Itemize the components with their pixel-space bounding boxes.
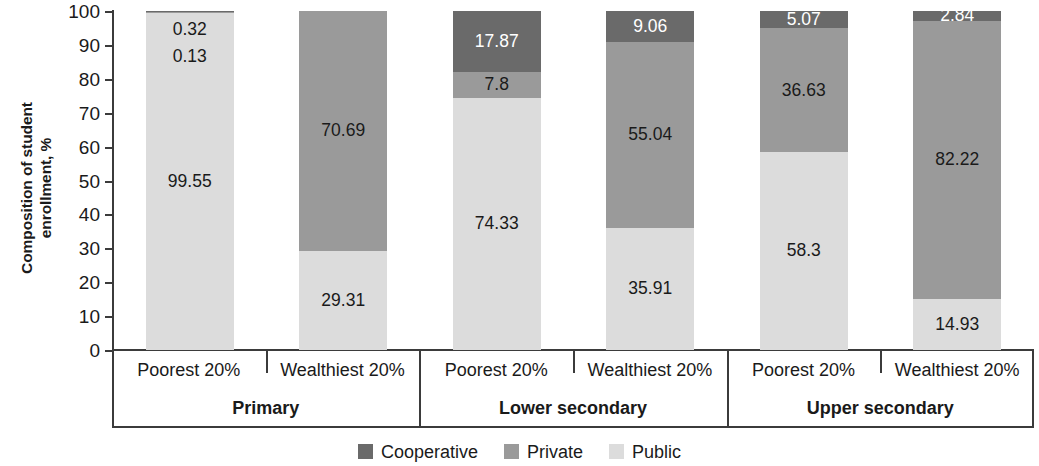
stacked-bar[interactable]: 5.0736.6358.3 [760,11,848,350]
y-axis-tick-mark [105,248,113,250]
bar-segment-value-label: 5.07 [787,11,821,29]
bar-segment[interactable]: 55.04 [606,42,694,229]
bar-slot: 2.8482.2214.93 [881,11,1035,350]
bar-segment-value-label: 58.3 [787,242,821,260]
x-axis-category-label: Poorest 20% [727,351,881,389]
y-axis-tick-label: 50 [79,171,100,190]
bar-segment[interactable]: 5.07 [760,11,848,28]
bar-segment-value-label: 55.04 [628,126,672,144]
chart-legend: CooperativePrivatePublic [0,437,1039,466]
bar-segment-value-label: 70.69 [321,122,365,140]
bar-slot: 17.877.874.33 [420,11,574,350]
bar-slot: 99.550.320.13 [113,11,267,350]
y-axis-tick-label: 0 [89,341,100,360]
legend-swatch-icon [504,444,519,459]
bar-segment[interactable]: 29.31 [299,251,387,350]
bar-slot: 9.0655.0435.91 [574,11,728,350]
stacked-bar[interactable]: 9.0655.0435.91 [606,11,694,350]
y-axis-tick-mark [105,79,113,81]
x-axis-category-label: Wealthiest 20% [266,351,420,389]
y-axis-tick-label: 40 [79,205,100,224]
bar-segment-value-label: 0.13 [173,48,207,66]
bar-segment[interactable]: 14.93 [913,299,1001,350]
x-axis-frame-left [112,351,114,428]
x-axis-category-separator [266,351,268,373]
y-axis-title: Composition of student enrollment, % [16,58,56,318]
x-axis-category-label: Wealthiest 20% [573,351,727,389]
y-axis-tick-label: 80 [79,69,100,88]
bar-segment[interactable]: 9.06 [606,11,694,42]
x-axis-category-separator [880,351,882,373]
y-axis-tick-label: 90 [79,35,100,54]
x-axis-group-separator [419,351,421,427]
stacked-bar[interactable]: 99.550.320.13 [146,11,234,350]
legend-label: Public [632,443,681,461]
bar-segment-value-label: 14.93 [935,316,979,334]
bar-slot: 70.6929.31 [267,11,421,350]
stacked-bar[interactable]: 17.877.874.33 [453,11,541,350]
stacked-bar-chart: Composition of student enrollment, % 010… [0,0,1039,466]
legend-label: Cooperative [381,443,478,461]
bar-segment[interactable]: 36.63 [760,28,848,152]
bar-series-container: 99.550.320.1370.6929.3117.877.874.339.06… [113,11,1034,350]
bar-segment-value-label: 36.63 [782,82,826,100]
bar-segment-value-label: 35.91 [628,280,672,298]
y-axis-tick-label: 70 [79,103,100,122]
y-axis-tick-mark [105,181,113,183]
x-axis-group-label: Lower secondary [419,389,726,427]
bar-segment-value-label: 74.33 [475,215,519,233]
y-axis-title-line-1: Composition of student [17,102,36,274]
bar-segment[interactable]: 74.33 [453,98,541,350]
x-axis-group-separator [727,351,729,427]
y-axis-tick-label: 100 [68,2,100,21]
y-axis-tick-mark [105,282,113,284]
y-axis-tick-mark [105,214,113,216]
bar-segment[interactable]: 7.8 [453,72,541,98]
y-axis-tick-mark [105,11,113,13]
x-axis-category-separator [573,351,575,373]
x-axis-frame-right [1032,351,1034,428]
bar-segment-value-label: 9.06 [633,18,667,36]
bar-segment-value-label: 99.55 [168,173,212,191]
legend-item[interactable]: Private [504,443,583,461]
bar-segment[interactable]: 35.91 [606,228,694,350]
stacked-bar[interactable]: 70.6929.31 [299,11,387,350]
bar-segment-value-label: 17.87 [475,33,519,51]
x-axis-frame-bottom [112,426,1034,428]
bar-segment[interactable]: 70.69 [299,11,387,251]
y-axis-tick-mark [105,316,113,318]
legend-swatch-icon [609,444,624,459]
y-axis-tick-mark [105,45,113,47]
legend-swatch-icon [358,444,373,459]
bar-segment[interactable]: 58.3 [760,152,848,350]
x-axis-group-label: Primary [112,389,419,427]
stacked-bar[interactable]: 2.8482.2214.93 [913,11,1001,350]
bar-segment-value-label: 7.8 [485,76,509,94]
bar-segment-value-label: 29.31 [321,292,365,310]
x-axis-category-label: Wealthiest 20% [880,351,1034,389]
legend-label: Private [527,443,583,461]
x-axis-group-label: Upper secondary [727,389,1034,427]
x-axis-group-row: PrimaryLower secondaryUpper secondary [112,389,1034,427]
y-axis-tick-mark [105,113,113,115]
y-axis-title-line-2: enrollment, % [36,138,55,238]
y-axis-tick-label: 10 [79,307,100,326]
y-axis-tick-label: 60 [79,137,100,156]
y-axis-tick-mark [105,147,113,149]
bar-segment[interactable]: 17.87 [453,11,541,72]
plot-area: 0102030405060708090100 99.550.320.1370.6… [113,11,1034,350]
bar-segment-value-label: 0.32 [173,21,207,39]
bar-segment[interactable]: 82.22 [913,21,1001,300]
x-axis-category-label: Poorest 20% [112,351,266,389]
bar-slot: 5.0736.6358.3 [727,11,881,350]
x-axis-category-label: Poorest 20% [419,351,573,389]
bar-segment[interactable]: 2.84 [913,11,1001,21]
legend-item[interactable]: Public [609,443,681,461]
legend-item[interactable]: Cooperative [358,443,478,461]
bar-segment-value-label: 82.22 [935,151,979,169]
y-axis-tick-label: 20 [79,273,100,292]
y-axis-tick-label: 30 [79,239,100,258]
